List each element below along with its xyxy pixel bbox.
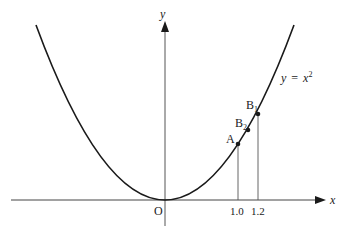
y-axis-arrow-icon — [161, 21, 169, 32]
curve-equation-label: y=x2 — [280, 70, 312, 85]
x-tick-1-2: 1.2 — [251, 205, 265, 217]
point-b2-label: B2 — [235, 116, 247, 132]
y-axis — [161, 21, 169, 226]
x-tick-1-0: 1.0 — [230, 205, 244, 217]
point-a — [236, 142, 241, 147]
parabola-diagram: A B2 B1 y=x2 y x O 1.0 1.2 — [0, 0, 341, 226]
x-axis-label: x — [329, 193, 336, 207]
origin-label: O — [154, 204, 163, 218]
y-axis-label: y — [159, 7, 166, 21]
x-axis-arrow-icon — [315, 196, 326, 204]
point-a-label: A — [226, 132, 235, 146]
point-b1-label: B1 — [246, 98, 258, 114]
